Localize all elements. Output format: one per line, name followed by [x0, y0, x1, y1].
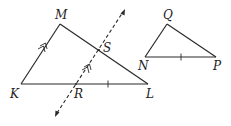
label-n: N [137, 59, 149, 73]
triangle-npq [145, 24, 216, 57]
point-s [98, 49, 100, 51]
label-p: P [212, 59, 222, 73]
dashed-line [57, 12, 123, 113]
segment-qp [167, 24, 216, 57]
point-r [75, 83, 77, 85]
arrowhead-up-icon [121, 9, 126, 16]
segment-nq [145, 24, 167, 57]
parallel-mark-rs [82, 64, 91, 73]
geometry-diagram: M K L R S Q N P [0, 0, 231, 126]
transversal-rs [55, 9, 125, 117]
arrowhead-down-icon [55, 111, 60, 118]
label-q: Q [163, 8, 173, 22]
label-l: L [145, 87, 154, 101]
segment-km [21, 24, 60, 84]
label-r: R [73, 87, 83, 101]
triangle-klm [21, 24, 148, 84]
label-s: S [103, 41, 111, 55]
label-m: M [54, 8, 68, 22]
label-k: K [9, 87, 20, 101]
